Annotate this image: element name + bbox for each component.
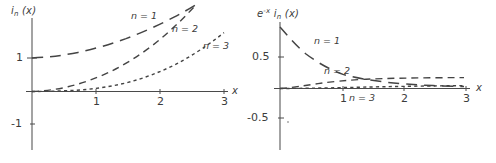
series-annotation-n1-left: n = 1 xyxy=(131,11,157,21)
axis-title-right-sup: -x xyxy=(263,7,270,15)
x-tick-label-1-right: 1 xyxy=(340,93,347,104)
y-tick-label-half-right: 0.5 xyxy=(252,51,270,62)
x-tick-label-3-left: 3 xyxy=(221,96,228,107)
axis-title-right: e-x in (x) xyxy=(257,8,299,21)
y-tick-label-neg1-left: -1 xyxy=(11,118,22,129)
series-annotation-n1-right: n = 1 xyxy=(314,36,340,46)
x-tick-label-3-right: 3 xyxy=(463,93,470,104)
plot-canvas-left xyxy=(0,0,248,163)
axis-title-right-arg: (x) xyxy=(285,8,299,19)
axis-title-left-sub: n xyxy=(14,10,19,18)
y-tick-label-neghalf-right: -0.5 xyxy=(247,112,268,123)
stray-mark-right xyxy=(287,121,289,123)
plot-canvas-right xyxy=(248,0,496,163)
y-tick-label-1-left: 1 xyxy=(16,52,23,63)
series-annotation-n3-right: n = 3 xyxy=(349,93,375,103)
bessel-function-figure: in (x) 1 -1 1 2 3 x n = 1 n = 2 n = 3 xyxy=(0,0,496,163)
series-annotation-n2-right: n = 2 xyxy=(324,66,350,76)
x-tick-label-2-right: 2 xyxy=(401,93,408,104)
axis-title-left-arg: (x) xyxy=(22,5,36,16)
x-axis-label-right: x xyxy=(476,83,482,93)
x-tick-label-2-left: 2 xyxy=(157,96,164,107)
series-annotation-n3-left: n = 3 xyxy=(203,41,229,51)
axis-title-right-sub: n xyxy=(277,13,282,21)
x-axis-label-left: x xyxy=(232,86,238,96)
axis-title-left: in (x) xyxy=(11,6,36,18)
x-tick-label-1-left: 1 xyxy=(93,96,100,107)
plot-panel-right: e-x in (x) 0.5 -0.5 1 2 3 x n = 1 n = 2 … xyxy=(248,0,496,163)
series-annotation-n2-left: n = 2 xyxy=(172,24,198,34)
plot-panel-left: in (x) 1 -1 1 2 3 x n = 1 n = 2 n = 3 xyxy=(0,0,248,163)
